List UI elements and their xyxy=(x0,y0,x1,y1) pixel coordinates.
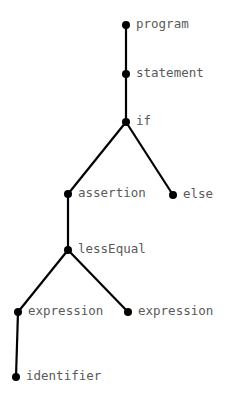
tree-edge xyxy=(68,122,126,194)
node-label-expression-right: expression xyxy=(138,304,213,318)
node-label-if: if xyxy=(136,114,151,128)
node-label-assertion: assertion xyxy=(78,186,146,200)
node-dot-expression-left xyxy=(14,308,22,316)
node-label-identifier: identifier xyxy=(26,369,101,383)
node-dot-expression-right xyxy=(124,308,132,316)
node-label-statement: statement xyxy=(136,66,204,80)
node-dot-statement xyxy=(122,70,130,78)
node-dot-program xyxy=(122,21,130,29)
node-label-program: program xyxy=(136,17,189,31)
node-dot-else xyxy=(169,191,177,199)
tree-edge xyxy=(16,312,18,377)
node-dot-if xyxy=(122,118,130,126)
node-label-expression-left: expression xyxy=(28,304,103,318)
node-dot-identifier xyxy=(12,373,20,381)
node-label-lessequal: lessEqual xyxy=(78,242,146,256)
node-label-else: else xyxy=(183,187,213,201)
node-dot-lessequal xyxy=(64,246,72,254)
node-dot-assertion xyxy=(64,190,72,198)
parse-tree-diagram: program statement if assertion else less… xyxy=(0,0,239,397)
